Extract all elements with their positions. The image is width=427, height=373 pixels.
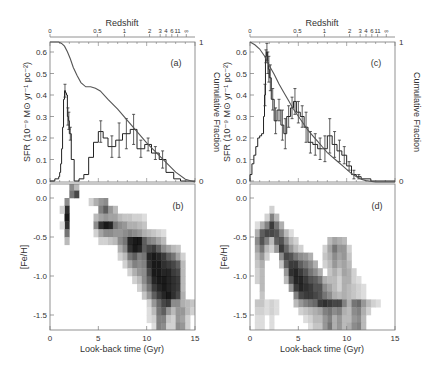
heatmap-cell [260, 253, 265, 261]
heatmap-cell [156, 307, 161, 315]
heatmap-cell [255, 237, 260, 245]
heatmap-cell [171, 284, 176, 292]
cumulative-ylabel-left: Cumulative Fraction [212, 72, 222, 152]
sfr-tick-label: 0.5 [236, 70, 248, 79]
heatmap-cell [65, 214, 70, 222]
heatmap-cell [132, 276, 137, 284]
heatmap-cell [69, 190, 74, 198]
heatmap-cell [142, 214, 147, 222]
heatmap-cell [318, 292, 323, 300]
heatmap-cell [152, 245, 157, 253]
heatmap-cell [327, 276, 332, 284]
heatmap-cell [298, 284, 303, 292]
heatmap-cell [127, 268, 132, 276]
cum-tick-1-left: 1 [199, 38, 204, 47]
sfr-tick-label: 0.3 [236, 113, 248, 122]
heatmap-cell [161, 292, 166, 300]
redshift-tick-label: 2 [348, 28, 352, 34]
heatmap-cell [342, 276, 347, 284]
heatmap-cell [176, 292, 181, 300]
heatmap-cell [147, 292, 152, 300]
heatmap-cell [65, 198, 70, 206]
redshift-tick-label: 11 [374, 28, 381, 34]
heatmap-cell [137, 237, 142, 245]
heatmap-cell [318, 307, 323, 315]
heatmap-cell [342, 307, 347, 315]
heatmap-cell [260, 237, 265, 245]
heatmap-cell [313, 268, 318, 276]
heatmap-cell [176, 276, 181, 284]
heatmap-cell [303, 276, 308, 284]
heatmap-cell [98, 237, 103, 245]
heatmap-cell [284, 253, 289, 261]
heatmap-cell [156, 260, 161, 268]
heatmap-cell [342, 253, 347, 261]
heatmap-cell [152, 229, 157, 237]
heatmap-cell [308, 284, 313, 292]
heatmap-cell [347, 260, 352, 268]
sfr-ylabel-right: SFR (10⁻⁹ M⊙ yr⁻¹ pc⁻²) [222, 62, 232, 162]
heatmap-cell [342, 260, 347, 268]
heatmap-cell [284, 260, 289, 268]
heatmap-cell [289, 260, 294, 268]
feh-tick-label: -1.0 [233, 272, 247, 281]
heatmap-cell [313, 284, 318, 292]
heatmap-cell [337, 237, 342, 245]
heatmap-cell [171, 276, 176, 284]
heatmap-cell [156, 237, 161, 245]
heatmap-cell [269, 221, 274, 229]
heatmap-cell [156, 292, 161, 300]
heatmap-cell [352, 307, 357, 315]
xlabel-left: Look-back time (Gyr) [80, 344, 164, 354]
heatmap-cell [327, 307, 332, 315]
heatmap-cell [166, 284, 171, 292]
heatmap-cell [103, 198, 108, 206]
heatmap-cell [265, 237, 270, 245]
heatmap-cell [260, 284, 265, 292]
feh-tick-label: -1.5 [33, 311, 47, 320]
heatmap-cell [352, 299, 357, 307]
heatmap-cell [176, 245, 181, 253]
time-tick-label: 15 [391, 334, 400, 343]
heatmap-cell [294, 253, 299, 261]
heatmap-cell [152, 299, 157, 307]
heatmap-cell [94, 221, 99, 229]
heatmap-cell [361, 292, 366, 300]
heatmap-cell [181, 268, 186, 276]
redshift-axis-title-right: Redshift [305, 18, 339, 28]
heatmap-cell [181, 299, 186, 307]
heatmap-cell [274, 237, 279, 245]
right-column: Redshift 00.51234611∞ 0.00.10.20.30.40.5… [219, 18, 422, 354]
heatmap-cell [152, 292, 157, 300]
heatmap-cell [308, 253, 313, 261]
heatmap-cell [161, 284, 166, 292]
heatmap-cell [269, 214, 274, 222]
heatmap-cell [274, 245, 279, 253]
redshift-axis-left: 00.51234611∞ [48, 28, 195, 37]
heatmap-cell [147, 284, 152, 292]
panel-c-label: (c) [371, 58, 382, 68]
heatmap-cell [327, 268, 332, 276]
heatmap-cell [327, 292, 332, 300]
heatmap-cell [323, 292, 328, 300]
heatmap-cell [171, 253, 176, 261]
heatmap-cell [352, 276, 357, 284]
heatmap-cell [142, 253, 147, 261]
heatmap-cell [137, 214, 142, 222]
heatmap-cell [255, 221, 260, 229]
heatmap-cell [269, 307, 274, 315]
heatmap-cell [260, 307, 265, 315]
heatmap-cell [166, 253, 171, 261]
heatmap-cell [298, 253, 303, 261]
cum-tick-0-right: 0 [399, 177, 404, 186]
heatmap-cell [108, 221, 113, 229]
heatmap-cell [185, 299, 190, 307]
heatmap-cell [284, 276, 289, 284]
heatmap-cell [265, 229, 270, 237]
heatmap-cell [156, 315, 161, 323]
heatmap-cell [265, 253, 270, 261]
heatmap-cell [274, 299, 279, 307]
heatmap-cell [74, 190, 79, 198]
heatmap-cell [260, 276, 265, 284]
heatmap-cell [289, 245, 294, 253]
